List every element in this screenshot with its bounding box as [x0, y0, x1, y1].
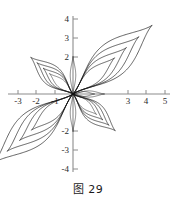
x-tick-label-5: 5 [163, 96, 168, 106]
curve-petal-upper-left-inner [43, 68, 73, 94]
x-tick-label--2: -2 [32, 96, 40, 106]
y-tick-label-3: 3 [65, 33, 70, 43]
curve-petal-lower-right-inner [73, 94, 103, 120]
y-tick-label--2: -2 [62, 126, 70, 136]
curve-petal-upper-right-outer [73, 25, 152, 94]
y-tick-label-4: 4 [65, 14, 70, 24]
curve-petal-upper-right-core [73, 58, 115, 94]
x-tick-label-3: 3 [126, 96, 131, 106]
curve-petal-lower-right-mid [73, 94, 109, 125]
x-tick-label--3: -3 [14, 96, 22, 106]
x-tick-label-4: 4 [144, 96, 149, 106]
y-tick-label--3: -3 [62, 145, 70, 155]
y-tick-label-2: 2 [65, 52, 70, 62]
curve-petal-upper-left-mid [37, 63, 73, 94]
x-tick-labels: -3 -2 -1 3 4 5 [14, 96, 168, 106]
figure-caption: 图 29 [0, 180, 176, 196]
curve-petal-upper-right-mid [73, 37, 139, 94]
curve-petal-upper-right-inner [73, 48, 126, 94]
figure-container: -3 -2 -1 3 4 5 4 3 2 -2 -3 -4 图 29 [0, 0, 176, 203]
y-tick-label--4: -4 [62, 164, 70, 174]
curve-petal-lower-right-core [73, 94, 97, 115]
plot-area: -3 -2 -1 3 4 5 4 3 2 -2 -3 -4 [0, 0, 176, 180]
curve-petal-upper-left-core [49, 73, 73, 94]
curve-plot-svg: -3 -2 -1 3 4 5 4 3 2 -2 -3 -4 [0, 0, 176, 180]
